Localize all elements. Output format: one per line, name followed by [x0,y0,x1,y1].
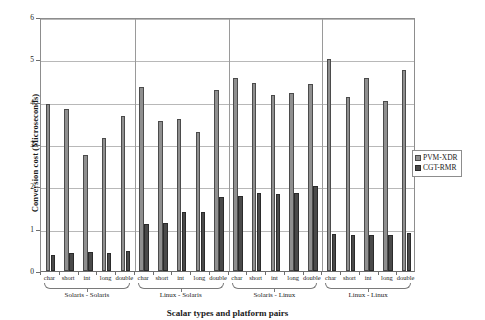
bar-pvm-xdr-short [64,109,68,271]
x-axis-tick-mark [228,272,229,275]
bar-slot [172,19,191,271]
x-axis-tick-label: int [359,274,378,281]
bar-pvm-xdr-char [139,87,143,271]
x-axis-tick-mark [303,272,304,275]
bar-pvm-xdr-long [383,101,387,271]
x-axis-tick-label: long [378,274,397,281]
x-axis-tick-label: char [228,274,247,281]
bar-slot [379,19,398,271]
x-axis-tick-label: int [265,274,284,281]
bar-pvm-xdr-short [252,83,256,271]
bar-slot [97,19,116,271]
bar-slot [229,19,248,271]
bar-pvm-xdr-char [327,59,331,271]
bar-cgt-rmr-double [407,233,411,271]
bar-cgt-rmr-char [51,255,55,271]
x-axis-tick-mark [171,272,172,275]
bar-pvm-xdr-double [214,90,218,271]
chart-legend: PVM-XDR CGT-RMR [412,150,462,177]
bar-cgt-rmr-long [294,193,298,271]
bar-cgt-rmr-int [276,194,280,271]
x-axis-tick-mark [40,272,41,275]
x-axis-tick-label: char [134,274,153,281]
bar-cgt-rmr-short [163,223,167,271]
x-axis-tick-label: short [59,274,78,281]
x-axis-tick-mark [134,272,135,275]
bar-slot [79,19,98,271]
legend-label: CGT-RMR [423,163,456,173]
bar-pvm-xdr-int [177,119,181,271]
y-axis-title: Conversion cost (Microseconds) [30,58,40,248]
legend-swatch-icon [415,165,421,171]
bar-slot [304,19,323,271]
x-axis-tick-mark [359,272,360,275]
x-axis-tick-label: short [246,274,265,281]
bar-pvm-xdr-char [233,78,237,271]
bar-pvm-xdr-char [46,104,50,271]
bar-slot [341,19,360,271]
x-axis-tick-label: char [321,274,340,281]
y-axis-tick-label: 6 [0,13,34,22]
bar-slot [116,19,135,271]
x-axis-tick-label: long [96,274,115,281]
x-axis-tick-mark [209,272,210,275]
bar-slot [397,19,416,271]
bar-pvm-xdr-long [102,138,106,271]
bar-cgt-rmr-int [88,252,92,271]
group-label: Linux - Solaris [134,291,228,299]
group-brace [44,283,130,289]
x-axis-tick-mark [340,272,341,275]
bar-cgt-rmr-char [332,234,336,271]
x-axis-tick-label: short [340,274,359,281]
x-axis-tick-mark [378,272,379,275]
bar-cgt-rmr-int [182,212,186,271]
bar-slot [41,19,60,271]
group-brace [232,283,318,289]
bar-pvm-xdr-int [271,95,275,271]
bar-slot [210,19,229,271]
bar-slot [135,19,154,271]
bar-slot [60,19,79,271]
bar-cgt-rmr-int [369,235,373,271]
bar-pvm-xdr-short [158,121,162,271]
x-axis-tick-mark [96,272,97,275]
y-axis-tick-label: 5 [0,55,34,64]
plot-area [40,18,415,272]
x-axis-tick-label: char [40,274,59,281]
y-axis-tick-label: 0 [0,267,34,276]
x-axis-tick-label: double [303,274,322,281]
x-axis-tick-mark [396,272,397,275]
x-axis-tick-label: double [396,274,415,281]
bar-pvm-xdr-int [83,155,87,271]
bar-pvm-xdr-double [121,116,125,271]
y-axis-tick-label: 3 [0,140,34,149]
legend-item-cgt-rmr: CGT-RMR [415,163,458,173]
x-axis-tick-label: int [171,274,190,281]
bar-cgt-rmr-short [69,253,73,271]
bar-cgt-rmr-double [126,251,130,271]
y-axis-tick-label: 4 [0,98,34,107]
bar-cgt-rmr-char [144,224,148,271]
legend-item-pvm-xdr: PVM-XDR [415,153,458,163]
bar-slot [247,19,266,271]
group-label: Solaris - Solaris [40,291,134,299]
legend-label: PVM-XDR [423,153,458,163]
x-axis-title: Scalar types and platform pairs [40,308,415,320]
bar-pvm-xdr-double [402,70,406,271]
x-axis-tick-label: long [284,274,303,281]
bar-slot [322,19,341,271]
bar-pvm-xdr-double [308,84,312,271]
bar-pvm-xdr-long [289,93,293,271]
x-axis-tick-mark [153,272,154,275]
y-axis-tick-label: 1 [0,225,34,234]
x-axis-tick-mark [59,272,60,275]
bar-cgt-rmr-short [257,193,261,271]
x-axis-tick-label: long [190,274,209,281]
bar-cgt-rmr-char [238,196,242,271]
x-axis-tick-mark [284,272,285,275]
x-axis-tick-mark [321,272,322,275]
group-label: Linux - Linux [321,291,415,299]
x-axis-tick-mark [246,272,247,275]
x-axis-tick-label: double [115,274,134,281]
bar-cgt-rmr-double [219,197,223,271]
